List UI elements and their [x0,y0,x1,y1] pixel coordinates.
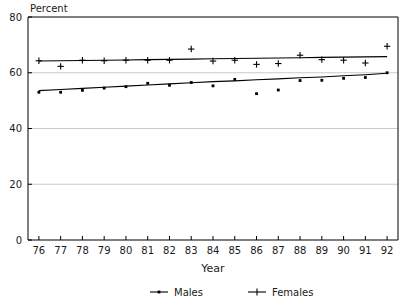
x-tick-label: 86 [250,245,263,256]
y-tick-group: 020406080 [9,12,32,246]
trend-line [39,73,387,90]
x-tick-label: 82 [163,245,176,256]
chart-container: 020406080 767778798081828384858687888990… [0,0,415,306]
series-females [36,43,391,69]
data-point [342,77,345,80]
data-point [37,91,40,94]
data-point [362,60,368,66]
data-point [57,63,63,69]
x-tick-label: 79 [98,245,111,256]
x-tick-label: 89 [315,245,328,256]
data-point [81,89,84,92]
data-point [146,82,149,85]
x-tick-label: 80 [120,245,133,256]
data-point [79,57,85,63]
x-tick-label: 87 [272,245,285,256]
data-point [384,43,390,49]
x-axis-title: Year [200,262,225,275]
data-point [233,78,236,81]
y-tick-label: 20 [9,179,22,190]
legend-item-females: Females [248,287,313,298]
x-tick-label: 84 [207,245,220,256]
series-males [37,71,388,95]
x-tick-label: 78 [76,245,89,256]
data-point [188,46,194,52]
x-tick-label: 90 [337,245,350,256]
data-point [59,91,62,94]
data-point [36,58,42,64]
x-tick-label: 92 [381,245,394,256]
x-tick-label: 83 [185,245,198,256]
x-tick-label: 91 [359,245,372,256]
x-tick-label: 88 [294,245,307,256]
legend-item-males: Males [150,287,203,298]
data-series-group [36,43,391,95]
legend-marker-dot [158,291,161,294]
data-point [125,85,128,88]
data-point [101,58,107,64]
data-point [145,57,151,63]
y-tick-label: 40 [9,123,22,134]
data-point [123,57,129,63]
data-point [386,71,389,74]
data-point [255,92,258,95]
data-point [190,81,193,84]
data-point [277,89,280,92]
data-point [340,57,346,63]
chart-svg: 020406080 767778798081828384858687888990… [0,0,415,306]
data-point [168,84,171,87]
x-tick-label: 76 [33,245,46,256]
y-tick-label: 0 [16,235,22,246]
x-tick-group: 7677787980818283848586878889909192 [33,236,394,256]
legend-group: MalesFemales [150,287,313,298]
data-point [299,79,302,82]
y-tick-label: 80 [9,12,22,23]
data-point [364,76,367,79]
data-point [275,60,281,66]
y-tick-label: 60 [9,67,22,78]
data-point [103,87,106,90]
legend-label: Females [272,287,313,298]
data-point [212,84,215,87]
data-point [253,61,259,67]
legend-label: Males [174,287,203,298]
x-tick-label: 77 [54,245,67,256]
data-point [166,57,172,63]
data-point [320,79,323,82]
x-tick-label: 81 [141,245,154,256]
x-tick-label: 85 [228,245,241,256]
y-axis-unit-label: Percent [30,3,68,14]
